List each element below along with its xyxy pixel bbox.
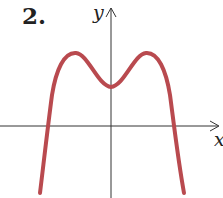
x-axis-label: x <box>214 128 223 150</box>
problem-number: 2. <box>22 2 46 29</box>
function-curve <box>40 53 184 193</box>
figure: 2. y x <box>0 0 223 198</box>
y-axis-label: y <box>93 1 104 23</box>
graph <box>0 0 223 198</box>
